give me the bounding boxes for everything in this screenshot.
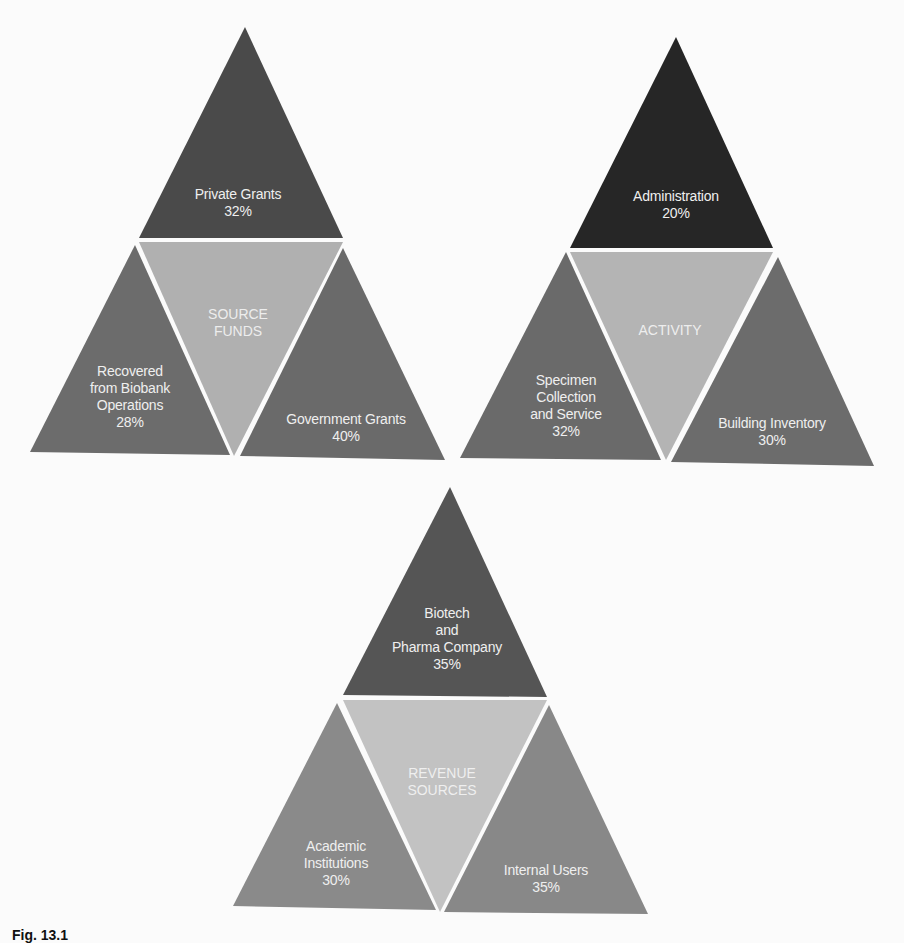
- label-line: Operations: [90, 397, 170, 414]
- label-line: FUNDS: [208, 323, 268, 340]
- pyramid-activity: [460, 37, 874, 466]
- label-line: Internal Users: [504, 862, 588, 879]
- label-line: Building Inventory: [718, 415, 826, 432]
- label-line: REVENUE: [407, 765, 476, 782]
- label-building-inventory: Building Inventory 30%: [718, 415, 826, 449]
- label-value: 40%: [286, 428, 406, 445]
- label-line: SOURCES: [407, 782, 476, 799]
- label-biotech-pharma: Biotech and Pharma Company 35%: [392, 605, 502, 673]
- label-activity-center: ACTIVITY: [638, 322, 701, 339]
- label-value: 20%: [633, 205, 719, 222]
- label-value: 28%: [90, 414, 170, 431]
- figure-caption: Fig. 13.1: [12, 927, 68, 943]
- label-line: Private Grants: [195, 186, 282, 203]
- label-line: ACTIVITY: [638, 322, 701, 339]
- label-specimen-collection: Specimen Collection and Service 32%: [530, 372, 602, 440]
- label-line: Government Grants: [286, 411, 406, 428]
- pyramid-revenue-sources: [233, 487, 648, 914]
- label-line: Recovered: [90, 363, 170, 380]
- label-line: Institutions: [304, 855, 369, 872]
- label-line: Academic: [304, 838, 369, 855]
- label-line: Pharma Company: [392, 639, 502, 656]
- label-line: Specimen: [530, 372, 602, 389]
- label-administration: Administration 20%: [633, 188, 719, 222]
- label-recovered-biobank: Recovered from Biobank Operations 28%: [90, 363, 170, 431]
- label-private-grants: Private Grants 32%: [195, 186, 282, 220]
- label-line: and Service: [530, 406, 602, 423]
- label-line: Administration: [633, 188, 719, 205]
- label-value: 30%: [304, 872, 369, 889]
- label-line: Collection: [530, 389, 602, 406]
- label-academic-institutions: Academic Institutions 30%: [304, 838, 369, 889]
- label-revenue-center: REVENUE SOURCES: [407, 765, 476, 799]
- label-line: from Biobank: [90, 380, 170, 397]
- label-line: Biotech: [392, 605, 502, 622]
- label-line: and: [392, 622, 502, 639]
- label-government-grants: Government Grants 40%: [286, 411, 406, 445]
- label-value: 30%: [718, 432, 826, 449]
- label-internal-users: Internal Users 35%: [504, 862, 588, 896]
- label-value: 35%: [392, 656, 502, 673]
- label-value: 35%: [504, 879, 588, 896]
- label-value: 32%: [195, 203, 282, 220]
- label-line: SOURCE: [208, 306, 268, 323]
- label-value: 32%: [530, 423, 602, 440]
- label-source-funds-center: SOURCE FUNDS: [208, 306, 268, 340]
